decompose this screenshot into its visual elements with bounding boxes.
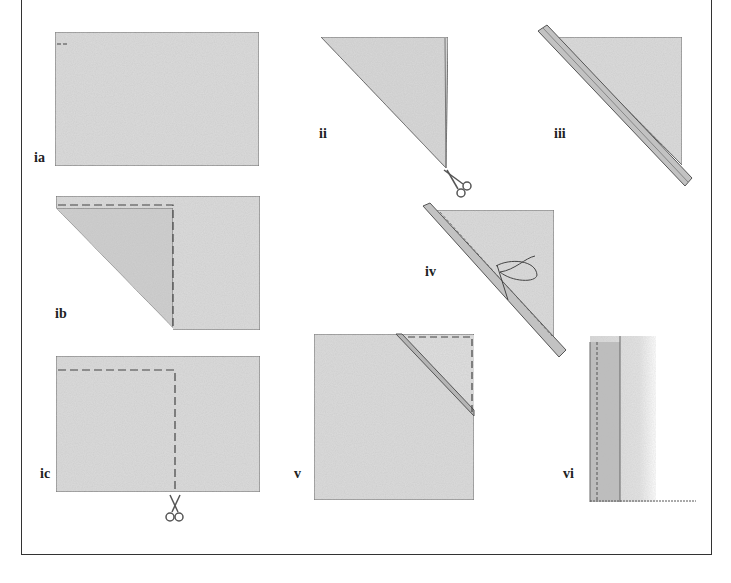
- panel-label-ic: ic: [40, 466, 50, 482]
- panel-ia: [55, 32, 259, 166]
- panel-label-iii: iii: [554, 126, 566, 142]
- panel-ic: [56, 356, 260, 521]
- panel-iii: [538, 25, 692, 186]
- panel-label-ia: ia: [34, 150, 45, 166]
- panel-v: [314, 334, 474, 500]
- panel-label-ib: ib: [55, 306, 67, 322]
- panel-label-iv: iv: [425, 264, 436, 280]
- panel-vi: [590, 336, 696, 502]
- panel-label-vi: vi: [563, 466, 574, 482]
- scissors-icon: [166, 495, 183, 521]
- panel-ii: [321, 37, 471, 197]
- figure-illustration: [0, 0, 731, 583]
- scissors-icon: [444, 170, 471, 197]
- panel-label-v: v: [294, 466, 301, 482]
- panel-label-ii: ii: [319, 126, 327, 142]
- panel-ib: [56, 196, 260, 330]
